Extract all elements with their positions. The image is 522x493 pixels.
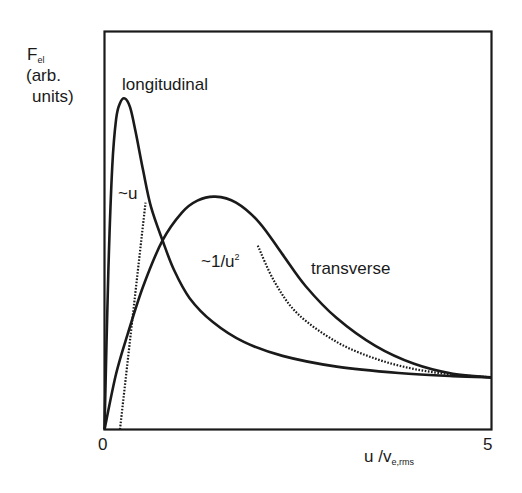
x-label-main: u /v [364,447,391,466]
y-axis-label-units-1: (arb. [26,66,61,85]
y-axis-label-units-2: units) [32,87,74,106]
y-label-subscript: el [37,55,44,65]
curve-transverse [105,197,492,430]
annotation-inverse-square-base: ~1/u [201,252,235,271]
x-tick-0: 0 [98,435,107,454]
x-tick-5: 5 [483,435,492,454]
plot-area [0,0,522,493]
x-axis-label: u /ve,rms [364,447,414,472]
y-label-symbol: F [27,45,37,64]
curve-label-longitudinal: longitudinal [122,75,208,94]
annotation-linear: ~u [118,184,137,203]
annotation-inverse-square: ~1/u2 [201,248,240,271]
annotation-inverse-square-exponent: 2 [235,252,240,262]
curve-label-transverse: transverse [311,259,390,278]
x-label-subscript: e,rms [391,457,414,467]
curve-longitudinal [105,98,492,429]
